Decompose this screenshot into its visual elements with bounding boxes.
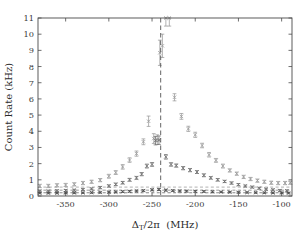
x-tick-label: -350 bbox=[56, 199, 74, 209]
y-tick-label: 6 bbox=[29, 94, 34, 104]
x-tick-label: -200 bbox=[186, 199, 204, 209]
y-tick-label: 7 bbox=[29, 78, 34, 88]
y-tick-label: 4 bbox=[29, 126, 34, 136]
y-axis-label: Count Rate (kHz) bbox=[3, 63, 14, 152]
count-rate-spectrum-figure: -350-300-250-200-150-10001234567891011 C… bbox=[0, 0, 306, 241]
y-tick-label: 8 bbox=[29, 62, 34, 72]
x-tick-label: -250 bbox=[143, 199, 161, 209]
y-tick-label: 5 bbox=[29, 110, 34, 120]
y-tick-label: 3 bbox=[29, 142, 34, 152]
y-tick-label: 9 bbox=[29, 45, 34, 55]
y-tick-label: 1 bbox=[29, 175, 34, 185]
x-tick-label: -300 bbox=[100, 199, 118, 209]
x-tick-label: -100 bbox=[272, 199, 290, 209]
y-axis-label-group: Count Rate (kHz) bbox=[3, 63, 14, 152]
y-tick-label: 0 bbox=[29, 191, 34, 201]
x-tick-label: -150 bbox=[229, 199, 247, 209]
y-tick-label: 2 bbox=[29, 159, 34, 169]
y-tick-label: 10 bbox=[24, 29, 34, 39]
y-tick-label: 11 bbox=[24, 13, 34, 23]
